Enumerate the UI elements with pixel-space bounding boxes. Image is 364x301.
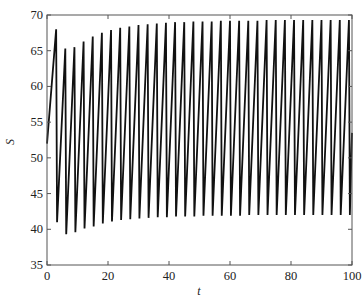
series-line	[47, 20, 352, 234]
x-tick-label: 60	[224, 269, 237, 283]
x-tick-label: 40	[163, 269, 176, 283]
x-tick-label: 100	[343, 269, 362, 283]
x-tick-label: 20	[102, 269, 115, 283]
y-tick-label: 55	[31, 115, 44, 129]
y-tick-label: 35	[31, 258, 44, 272]
x-axis-label: t	[197, 284, 201, 298]
y-tick-label: 60	[31, 79, 44, 93]
y-axis-label: S	[3, 139, 17, 145]
x-tick-label: 0	[44, 269, 50, 283]
chart: 020406080100 3540455055606570 t S	[0, 0, 364, 301]
y-tick-label: 50	[31, 151, 44, 165]
x-tick-label: 80	[285, 269, 298, 283]
y-tick-label: 40	[31, 222, 44, 236]
y-tick-label: 65	[31, 44, 44, 58]
y-tick-label: 45	[31, 187, 44, 201]
data-series-s	[47, 20, 352, 234]
y-tick-label: 70	[31, 8, 44, 22]
